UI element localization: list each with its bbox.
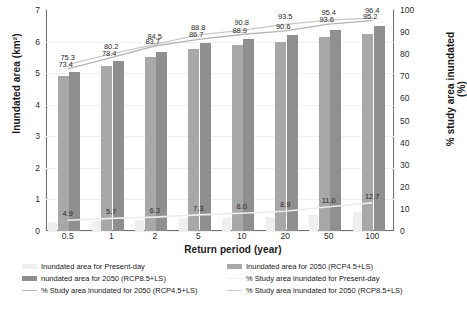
label-present-day-pct: 11.0 [313, 196, 345, 205]
plot-area: 4.973.475.35.778.480.26.383.784.57.386.7… [46, 10, 394, 231]
label-rcp85-pct: 75.3 [52, 53, 84, 62]
gridline [46, 231, 394, 232]
x-tick: 0.5 [48, 231, 88, 241]
label-rcp45-pct: 90.6 [267, 22, 299, 31]
label-present-day-pct: 6.3 [139, 206, 171, 215]
y-tick-right: 70 [400, 71, 424, 81]
label-present-day-pct: 8.9 [269, 200, 301, 209]
x-tick: 1 [91, 231, 131, 241]
x-tick: 10 [222, 231, 262, 241]
label-rcp85-pct: 93.5 [269, 12, 301, 21]
y-tick-right: 0 [400, 226, 424, 236]
x-tick: 50 [309, 231, 349, 241]
label-rcp85-pct: 80.2 [95, 42, 127, 51]
legend-label: Inundated area for 2050 (RCP4.5+LS) [246, 262, 373, 271]
x-tick: 2 [135, 231, 175, 241]
x-tick: 20 [265, 231, 305, 241]
y-tick-left: 7 [18, 5, 40, 15]
legend-swatch-bar [227, 264, 242, 269]
label-rcp85-pct: 90.8 [226, 18, 258, 27]
y-tick-right: 10 [400, 204, 424, 214]
y-tick-right: 30 [400, 160, 424, 170]
legend-swatch-line [227, 278, 242, 279]
legend-label: Inundated area for Present-day [41, 262, 145, 271]
legend-item[interactable]: Inundated area for 2050 (RCP4.5+LS) [227, 262, 452, 271]
legend-swatch-bar [22, 276, 37, 281]
legend-swatch-bar [22, 264, 37, 269]
legend-swatch-line [22, 290, 37, 291]
y-axis-right-title: % study area inundated (%) [445, 29, 467, 149]
legend-label: % Study area inundated for 2050 (RCP8.5+… [246, 286, 403, 295]
y-tick-right: 50 [400, 116, 424, 126]
legend-label: % Study area inundated for Present-day [246, 274, 379, 283]
legend-item[interactable]: % Study area inundated for Present-day [227, 274, 452, 283]
y-tick-left: 0 [18, 226, 40, 236]
label-rcp85-pct: 88.8 [182, 23, 214, 32]
legend-label: % Study area inundated for 2050 (RCP4.5+… [41, 286, 198, 295]
label-rcp85-pct: 96.4 [356, 6, 388, 15]
y-tick-left: 3 [18, 131, 40, 141]
y-tick-right: 20 [400, 182, 424, 192]
x-axis-title: Return period (year) [0, 244, 466, 255]
label-present-day-pct: 5.7 [95, 207, 127, 216]
label-present-day-pct: 4.9 [52, 209, 84, 218]
legend-item[interactable]: % Study area inundated for 2050 (RCP4.5+… [22, 286, 227, 295]
y-tick-right: 60 [400, 93, 424, 103]
legend-item[interactable]: Inundated area for Present-day [22, 262, 227, 271]
label-rcp85-pct: 95.4 [313, 8, 345, 17]
chart-legend: Inundated area for Present-dayInundated … [22, 262, 452, 295]
x-tick: 100 [352, 231, 392, 241]
y-tick-left: 6 [18, 37, 40, 47]
y-tick-left: 1 [18, 194, 40, 204]
y-tick-right: 90 [400, 27, 424, 37]
y-tick-left: 5 [18, 68, 40, 78]
label-present-day-pct: 7.3 [182, 204, 214, 213]
legend-label: nundated area for 2050 (RCP8.5+LS) [41, 274, 166, 283]
legend-item[interactable]: nundated area for 2050 (RCP8.5+LS) [22, 274, 227, 283]
y-tick-right: 100 [400, 5, 424, 15]
legend-item[interactable]: % Study area inundated for 2050 (RCP8.5+… [227, 286, 452, 295]
y-tick-right: 40 [400, 138, 424, 148]
x-tick: 5 [178, 231, 218, 241]
label-rcp85-pct: 84.5 [139, 32, 171, 41]
legend-swatch-line [227, 290, 242, 291]
y-tick-left: 4 [18, 100, 40, 110]
label-present-day-pct: 12.7 [356, 192, 388, 201]
label-present-day-pct: 8.0 [226, 202, 258, 211]
y-tick-right: 80 [400, 49, 424, 59]
y-tick-left: 2 [18, 163, 40, 173]
